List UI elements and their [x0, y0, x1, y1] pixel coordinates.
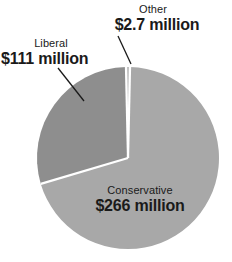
slice-label-conservative: Conservative $266 million — [76, 185, 204, 214]
slice-label-other-category: Other — [96, 4, 218, 15]
slice-label-liberal: Liberal $111 million — [0, 38, 116, 67]
pie-chart: Other $2.7 million Liberal $111 million … — [0, 0, 232, 262]
slice-label-other: Other $2.7 million — [96, 4, 218, 33]
slice-label-conservative-value: $266 million — [76, 198, 204, 214]
slice-label-liberal-category: Liberal — [0, 38, 116, 49]
slice-label-conservative-category: Conservative — [76, 185, 204, 196]
slice-label-other-value: $2.7 million — [96, 17, 218, 33]
leader-line-other — [118, 36, 131, 64]
slice-label-liberal-value: $111 million — [0, 51, 116, 67]
